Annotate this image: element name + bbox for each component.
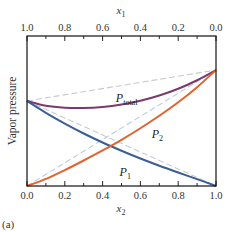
tick-label: 0.2 — [58, 190, 71, 201]
bottom-axis-title: x2 — [116, 202, 126, 217]
tick-label: 1.0 — [209, 190, 222, 201]
curve-label-p1: P1 — [119, 165, 131, 181]
tick-label: 0.4 — [96, 190, 110, 201]
tick-label: 0.0 — [209, 22, 222, 33]
curve-label-p2: P2 — [151, 127, 163, 143]
curve-labels: PtotalP2P1 — [115, 91, 163, 181]
tick-label: 0.8 — [172, 190, 185, 201]
curve-label-ptotal: Ptotal — [115, 91, 138, 107]
panel-label: (a) — [2, 218, 15, 231]
bottom-axis-ticks: 0.00.20.40.60.81.0 — [20, 181, 222, 201]
tick-label: 1.0 — [20, 22, 33, 33]
tick-label: 0.6 — [134, 190, 147, 201]
vapor-pressure-chart: 0.00.20.40.60.81.0 1.00.80.60.40.20.0 x1… — [0, 0, 234, 232]
top-axis-ticks: 1.00.80.60.40.20.0 — [20, 22, 222, 41]
tick-label: 0.2 — [172, 22, 185, 33]
y-axis-title: Vapor pressure — [6, 77, 19, 146]
plot-frame — [27, 36, 216, 186]
tick-label: 0.6 — [96, 22, 109, 33]
top-axis-title: x1 — [116, 4, 126, 19]
tick-label: 0.8 — [58, 22, 71, 33]
tick-label: 0.0 — [20, 190, 33, 201]
tick-label: 0.4 — [134, 22, 148, 33]
